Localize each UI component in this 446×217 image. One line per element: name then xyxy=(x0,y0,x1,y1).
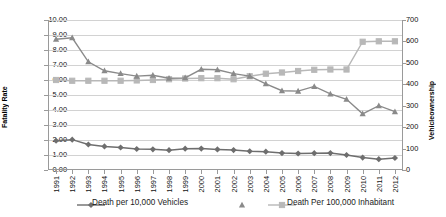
data-point-triangle xyxy=(239,202,245,208)
data-point-square xyxy=(70,78,75,83)
data-point-square xyxy=(279,202,284,207)
data-point-diamond xyxy=(85,141,91,147)
data-point-square xyxy=(215,76,220,81)
data-point-square xyxy=(86,78,91,83)
data-point-square xyxy=(328,67,333,72)
data-point-square xyxy=(53,77,58,82)
legend-label: Death per 10,000 Vehicles xyxy=(92,198,188,207)
data-point-square xyxy=(150,77,155,82)
legend-marker-triangle xyxy=(237,200,247,210)
data-point-diamond xyxy=(295,150,301,156)
data-point-diamond xyxy=(230,147,236,153)
data-point-diamond xyxy=(214,146,220,152)
data-point-square xyxy=(344,67,349,72)
series-2 xyxy=(53,34,398,116)
data-point-diamond xyxy=(182,146,188,152)
data-point-square xyxy=(360,39,365,44)
data-point-square xyxy=(199,76,204,81)
data-point-diamond xyxy=(247,148,253,154)
data-point-diamond xyxy=(392,155,398,161)
data-point-diamond xyxy=(134,146,140,152)
data-point-triangle xyxy=(376,102,382,108)
series-layer xyxy=(0,0,446,217)
data-point-triangle xyxy=(101,67,107,73)
data-point-diamond xyxy=(279,150,285,156)
data-point-diamond xyxy=(101,143,107,149)
data-point-square xyxy=(392,39,397,44)
legend-label: Death Per 100,000 Inhabitant xyxy=(287,198,394,207)
series-line xyxy=(56,38,395,114)
data-point-square xyxy=(118,78,123,83)
data-point-square xyxy=(231,77,236,82)
series-line xyxy=(56,41,395,80)
data-point-diamond xyxy=(343,152,349,158)
data-point-diamond xyxy=(118,144,124,150)
data-point-square xyxy=(296,68,301,73)
series-line xyxy=(56,140,395,160)
data-point-square xyxy=(263,71,268,76)
data-point-square xyxy=(312,67,317,72)
series-1 xyxy=(53,39,397,84)
data-point-diamond xyxy=(263,149,269,155)
data-point-diamond xyxy=(69,137,75,143)
data-point-diamond xyxy=(150,146,156,152)
chart-legend: Death per 10,000 VehiclesDeath Per 100,0… xyxy=(0,196,446,214)
data-point-diamond xyxy=(166,147,172,153)
data-point-diamond xyxy=(198,145,204,151)
data-point-square xyxy=(279,70,284,75)
data-point-diamond xyxy=(53,138,59,144)
data-point-triangle xyxy=(311,83,317,89)
data-point-diamond xyxy=(360,154,366,160)
chart-container: Fatality Rate Vehicleownership 0.001.002… xyxy=(0,0,446,217)
data-point-diamond xyxy=(311,150,317,156)
series-0 xyxy=(53,137,398,163)
data-point-diamond xyxy=(376,156,382,162)
data-point-square xyxy=(376,39,381,44)
data-point-square xyxy=(102,78,107,83)
data-point-diamond xyxy=(327,150,333,156)
